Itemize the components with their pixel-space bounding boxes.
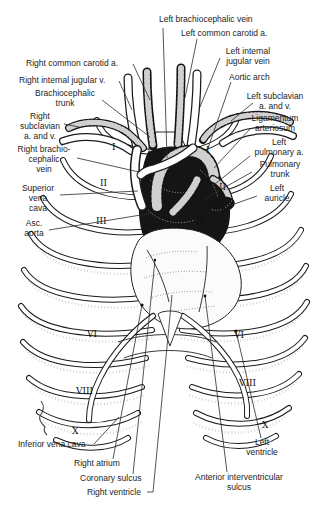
label-right-internal-jugular-v: Right internal jugular v. bbox=[19, 75, 105, 85]
rib-numeral-right-10: X bbox=[262, 420, 268, 430]
heart-ventricles bbox=[131, 228, 241, 329]
label-left-internal-jugular-vein: Left internal jugular vein bbox=[210, 46, 286, 66]
label-brachiocephalic-trunk: Brachiocephalic trunk bbox=[27, 88, 103, 108]
label-anterior-interventricular-sulcus: Anterior interventricular sulcus bbox=[186, 472, 292, 492]
label-right-brachiocephalic-vein: Right brachio- cephalic vein bbox=[8, 144, 80, 175]
label-left-brachiocephalic-vein: Left brachiocephalic vein bbox=[159, 14, 253, 24]
rib-numeral-left-3: III bbox=[96, 216, 107, 226]
anatomical-plate: Left brachiocephalic vein Left common ca… bbox=[0, 0, 324, 515]
rib-numeral-right-3: III bbox=[196, 216, 207, 226]
label-left-pulmonary-a: Left pulmonary a. bbox=[245, 137, 313, 157]
rib-numeral-right-2: II bbox=[219, 182, 226, 192]
label-coronary-sulcus: Coronary sulcus bbox=[80, 473, 141, 483]
label-right-atrium: Right atrium bbox=[74, 458, 120, 468]
leader-left-pulmonary-a bbox=[215, 156, 250, 184]
label-inferior-vena-cava: Inferior vena cava bbox=[18, 439, 86, 449]
label-ligamentum-arteriosum: Ligamentum arteriosum bbox=[240, 113, 310, 133]
label-left-common-carotid-a: Left common carotid a. bbox=[181, 28, 267, 38]
leader-right-brachiocephalic-vein bbox=[77, 158, 139, 172]
rib-numeral-left-10: X bbox=[72, 426, 78, 436]
rib-numeral-left-6: VI bbox=[87, 329, 97, 339]
heart bbox=[131, 228, 241, 329]
label-superior-vena-cava: Superior vena cava bbox=[14, 183, 62, 214]
rib-numeral-right-1: I bbox=[206, 145, 210, 155]
rib-numeral-right-8: VIII bbox=[239, 378, 256, 388]
rib-numeral-left-1: I bbox=[112, 142, 116, 152]
rib-numeral-left-8: VIII bbox=[76, 386, 93, 396]
label-left-subclavian-a-and-v: Left subclavian a. and v. bbox=[238, 91, 312, 111]
rib-numeral-right-6: VI bbox=[234, 330, 244, 340]
label-right-common-carotid-a: Right common carotid a. bbox=[26, 58, 118, 68]
rib-numeral-left-2: II bbox=[100, 178, 107, 188]
label-left-ventricle: Left ventricle bbox=[238, 437, 286, 457]
label-right-ventricle: Right ventricle bbox=[87, 487, 141, 497]
label-left-auricle: Left auricle bbox=[255, 183, 299, 203]
label-right-subclavian-a-and-v: Right subclavian a. and v. bbox=[14, 111, 66, 142]
label-asc-aorta: Asc. aorta bbox=[16, 218, 52, 238]
label-aortic-arch: Aortic arch bbox=[229, 72, 270, 82]
label-pulmonary-trunk: Pulmonary trunk bbox=[249, 159, 311, 179]
